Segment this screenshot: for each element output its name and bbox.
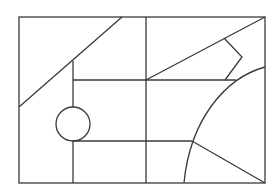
zigzag-line [224, 38, 242, 80]
small-circle [56, 107, 90, 141]
quarter-arc [184, 67, 265, 183]
diagonal-right-lower-line [192, 141, 265, 183]
geometric-drawing [0, 0, 279, 193]
diagram-canvas [0, 0, 279, 193]
diagonal-right-upper-line [146, 17, 265, 80]
diagonal-left-line [19, 17, 122, 107]
